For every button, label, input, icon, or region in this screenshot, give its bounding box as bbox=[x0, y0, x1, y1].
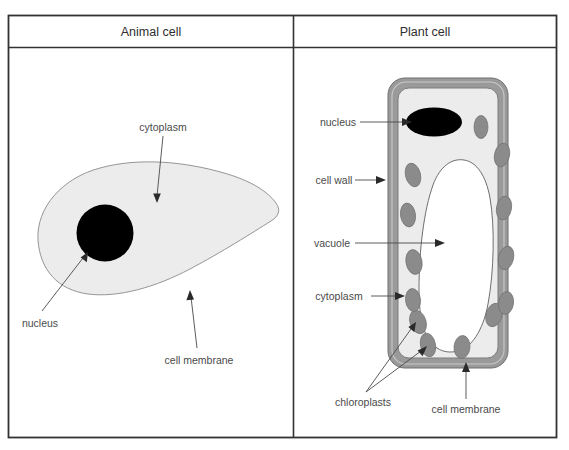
column-header-animal-cell: Animal cell bbox=[121, 25, 181, 39]
chloroplast-shape bbox=[474, 116, 488, 139]
column-header-plant-cell: Plant cell bbox=[400, 25, 451, 39]
plant-label-vacuole: vacuole bbox=[314, 237, 350, 249]
animal-label-cytoplasm: cytoplasm bbox=[139, 121, 187, 133]
plant-label-cytoplasm: cytoplasm bbox=[315, 290, 363, 302]
plant-label-cell-membrane: cell membrane bbox=[432, 403, 501, 415]
plant-nucleus-shape bbox=[406, 108, 462, 137]
diagram-canvas: Animal cell Plant cell cytop bbox=[0, 0, 569, 450]
plant-label-chloroplasts: chloroplasts bbox=[335, 396, 391, 408]
cell-diagram-figure: Animal cell Plant cell cytop bbox=[0, 0, 569, 450]
plant-label-nucleus: nucleus bbox=[320, 116, 356, 128]
animal-label-cell-membrane: cell membrane bbox=[165, 354, 234, 366]
animal-nucleus-shape bbox=[77, 205, 134, 262]
plant-label-cell-wall: cell wall bbox=[316, 174, 353, 186]
animal-label-nucleus: nucleus bbox=[22, 317, 58, 329]
